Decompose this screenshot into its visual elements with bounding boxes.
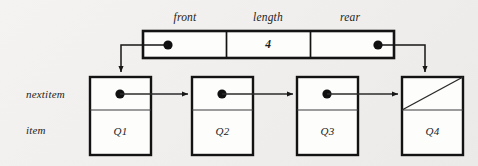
row-label-item: item xyxy=(26,125,46,136)
node-box-4 xyxy=(402,77,463,155)
header-label-rear: rear xyxy=(340,12,360,24)
node-box-1 xyxy=(90,77,151,155)
node-3-item-value: Q3 xyxy=(320,126,334,137)
length-value: 4 xyxy=(265,39,271,51)
diagram-canvas xyxy=(0,0,478,166)
node-4-item-value: Q4 xyxy=(425,126,439,137)
node-2-item-value: Q2 xyxy=(215,126,229,137)
header-label-length: length xyxy=(253,12,283,24)
header-label-front: front xyxy=(174,12,197,24)
linked-queue-diagram: front length rear 4 nextitem item Q1 Q2 … xyxy=(0,0,478,166)
node-box-2 xyxy=(192,77,253,155)
node-box-3 xyxy=(297,77,358,155)
row-label-nextitem: nextitem xyxy=(26,89,65,100)
node-1-item-value: Q1 xyxy=(113,126,127,137)
